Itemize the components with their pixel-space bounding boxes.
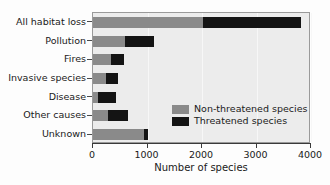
x-axis-tick — [147, 143, 148, 148]
bar-segment-threatened — [98, 92, 115, 103]
bar-row — [93, 36, 154, 47]
chart-legend: Non-threatened speciesThreatened species — [172, 104, 307, 126]
bar-segment-threatened — [106, 73, 117, 84]
x-axis-tick — [201, 143, 202, 148]
bar-row — [93, 129, 148, 140]
bar-row — [93, 73, 118, 84]
bar-segment-nonthreatened — [93, 54, 111, 65]
y-axis-tick — [87, 115, 92, 116]
x-axis-tick — [256, 143, 257, 148]
bar-segment-nonthreatened — [93, 110, 108, 121]
bar-segment-nonthreatened — [93, 36, 125, 47]
bar-segment-nonthreatened — [93, 129, 144, 140]
y-axis-tick — [87, 96, 92, 97]
y-axis-tick — [87, 21, 92, 22]
x-axis-tick-label: 2000 — [189, 149, 213, 160]
x-axis-tick-label: 4000 — [298, 149, 322, 160]
bar-row — [93, 17, 301, 28]
bar-segment-nonthreatened — [93, 73, 106, 84]
bar-segment-threatened — [108, 110, 128, 121]
y-axis-tick — [87, 78, 92, 79]
x-axis-title: Number of species — [92, 162, 310, 173]
bar-segment-nonthreatened — [93, 17, 203, 28]
bar-segment-threatened — [203, 17, 301, 28]
bar-row — [93, 110, 128, 121]
legend-entry: Non-threatened species — [172, 104, 307, 114]
bar-row — [93, 92, 116, 103]
x-axis-tick-label: 1000 — [134, 149, 158, 160]
x-axis-tick — [92, 143, 93, 148]
bar-segment-threatened — [111, 54, 124, 65]
legend-label: Threatened species — [194, 116, 287, 126]
bar-row — [93, 54, 124, 65]
gridline — [148, 13, 149, 142]
nonthreatened-swatch — [172, 105, 189, 114]
y-axis-tick — [87, 59, 92, 60]
x-axis-tick — [310, 143, 311, 148]
bar-segment-threatened — [144, 129, 148, 140]
y-axis-tick — [87, 134, 92, 135]
y-axis-tick — [87, 40, 92, 41]
bar-chart: All habitat lossPollutionFiresInvasive s… — [0, 0, 330, 185]
y-axis-ticks — [0, 12, 92, 143]
legend-label: Non-threatened species — [194, 104, 307, 114]
legend-entry: Threatened species — [172, 116, 307, 126]
bar-segment-threatened — [125, 36, 154, 47]
x-axis-tick-label: 0 — [89, 149, 95, 160]
threatened-swatch — [172, 117, 189, 126]
x-axis-tick-label: 3000 — [243, 149, 267, 160]
gridline — [311, 13, 312, 142]
